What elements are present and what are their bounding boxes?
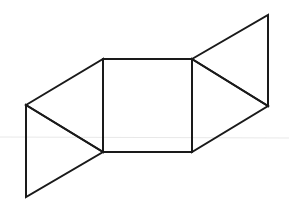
scan-artifact-line: [0, 137, 289, 138]
lower-left-triangle: [26, 105, 103, 197]
upper-right-triangle: [192, 15, 268, 106]
upper-left-triangle: [26, 59, 103, 152]
net-diagram: [0, 0, 289, 208]
